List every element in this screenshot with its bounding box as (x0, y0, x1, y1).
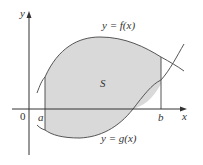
bound-label-b: b (158, 111, 164, 123)
diagram-canvas: y x 0 a b S y = f(x) y = g(x) (0, 0, 203, 165)
region-label: S (100, 77, 106, 89)
y-axis-label: y (19, 7, 25, 19)
bound-label-a: a (38, 111, 44, 123)
curve-g-label: y = g(x) (100, 132, 137, 145)
x-axis-label: x (181, 110, 187, 122)
area-between-curves-diagram: y x 0 a b S y = f(x) y = g(x) (0, 0, 203, 165)
origin-label: 0 (20, 110, 26, 122)
y-axis-arrow-icon (27, 11, 32, 18)
curve-f-label: y = f(x) (101, 19, 135, 32)
